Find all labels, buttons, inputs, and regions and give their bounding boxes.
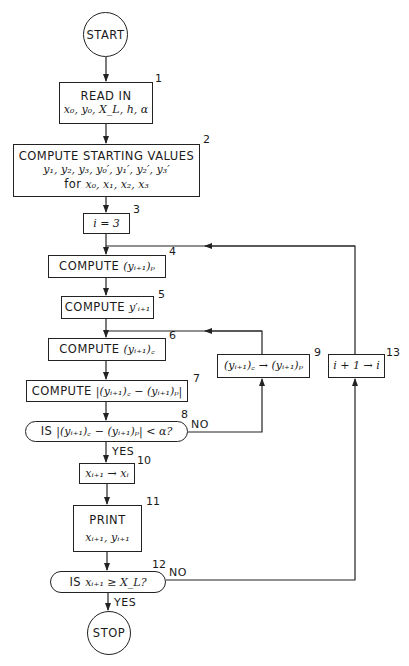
step-number-7: 7 [193, 372, 200, 385]
is-label: IS [41, 424, 53, 438]
start-label: START [87, 28, 125, 42]
stop-label: STOP [93, 626, 125, 640]
is-label: IS [69, 575, 81, 589]
increment-expr: i + 1 → i [333, 359, 379, 373]
no-label-12: NO [169, 566, 187, 579]
yes-label-12: YES [114, 596, 136, 609]
step-number-10: 10 [137, 454, 151, 467]
init-i-expr: i = 3 [93, 217, 120, 231]
step-number-5: 5 [158, 288, 165, 301]
advance-x-expr: xᵢ₊₁ → xᵢ [85, 467, 128, 481]
end-condition-decision: IS xᵢ₊₁ ≥ X_L? [50, 571, 166, 593]
step-number-4: 4 [169, 245, 176, 258]
read-in-box: READ IN x₀, y₀, X_L, h, α [59, 82, 153, 124]
increment-i-box: i + 1 → i [328, 354, 385, 378]
compute-label: COMPUTE [59, 342, 119, 356]
starting-x-values: x₀, x₁, x₂, x₃ [85, 178, 148, 192]
no-label-8: NO [191, 418, 209, 431]
print-box: PRINT xᵢ₊₁, yᵢ₊₁ [73, 505, 142, 552]
read-in-vars: x₀, y₀, X_L, h, α [64, 103, 148, 117]
compute-starting-label: COMPUTE STARTING VALUES [19, 149, 195, 163]
step-number-3: 3 [133, 203, 140, 216]
compute-predicted-box: COMPUTE (yᵢ₊₁)ₚ [48, 255, 166, 278]
step-number-8: 8 [181, 408, 188, 421]
advance-x-box: xᵢ₊₁ → xᵢ [79, 463, 135, 484]
compute-starting-values-box: COMPUTE STARTING VALUES y₁, y₂, y₃, y₀′,… [13, 144, 200, 197]
print-label: PRINT [89, 513, 125, 527]
convergence-decision: IS |(yᵢ₊₁)꜀ − (yᵢ₊₁)ₚ| < α? [25, 421, 188, 442]
end-condition: xᵢ₊₁ ≥ X_L? [85, 576, 146, 590]
step-number-12: 12 [152, 558, 166, 571]
compute-label: COMPUTE [65, 300, 125, 314]
yes-label-8: YES [112, 445, 134, 458]
derivative-expr: y′ᵢ₊₁ [129, 301, 150, 315]
replace-expr: (yᵢ₊₁)꜀ → (yᵢ₊₁)ₚ [224, 359, 303, 373]
stop-terminal: STOP [87, 611, 131, 655]
convergence-condition: |(yᵢ₊₁)꜀ − (yᵢ₊₁)ₚ| < α? [56, 425, 172, 439]
init-i-box: i = 3 [83, 213, 130, 234]
compute-derivative-box: COMPUTE y′ᵢ₊₁ [61, 296, 154, 319]
difference-expr: |(yᵢ₊₁)꜀ − (yᵢ₊₁)ₚ| [96, 385, 182, 399]
compute-corrected-box: COMPUTE (yᵢ₊₁)꜀ [48, 338, 166, 361]
replace-predicted-box: (yᵢ₊₁)꜀ → (yᵢ₊₁)ₚ [217, 354, 310, 378]
compute-label: COMPUTE [59, 259, 119, 273]
corrected-y-expr: (yᵢ₊₁)꜀ [123, 343, 154, 357]
print-vars: xᵢ₊₁, yᵢ₊₁ [85, 531, 129, 545]
step-number-6: 6 [169, 329, 176, 342]
starting-y-values: y₁, y₂, y₃, y₀′, y₁′, y₂′, y₃′ [43, 163, 169, 177]
read-in-label: READ IN [80, 89, 131, 103]
step-number-2: 2 [203, 133, 210, 146]
start-terminal: START [83, 12, 128, 57]
step-number-1: 1 [155, 72, 162, 85]
step-number-9: 9 [314, 346, 321, 359]
compute-label: COMPUTE [32, 384, 92, 398]
step-number-11: 11 [146, 495, 160, 508]
for-label: for [64, 177, 81, 191]
step-number-13: 13 [386, 346, 400, 359]
compute-difference-box: COMPUTE |(yᵢ₊₁)꜀ − (yᵢ₊₁)ₚ| [26, 380, 188, 402]
predicted-y-expr: (yᵢ₊₁)ₚ [123, 260, 155, 274]
